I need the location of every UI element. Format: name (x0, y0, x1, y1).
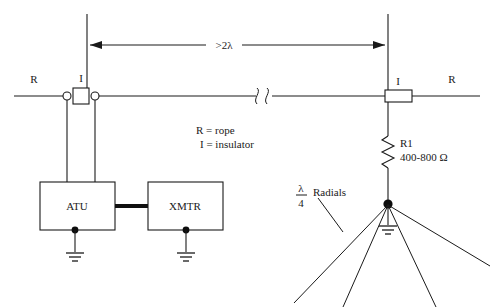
insulator-left (63, 88, 99, 104)
insulator-left-eye-east (91, 92, 99, 100)
label-resistor-ref: R1 (400, 137, 413, 149)
insulator-right-body (385, 90, 412, 102)
diagram-canvas: R R I I >2λ ATU XMTR R = rope I = insula… (0, 0, 494, 307)
label-radial-length-denominator: 4 (298, 197, 304, 209)
label-atu: ATU (66, 200, 87, 212)
legend-line-insulator: I = insulator (200, 138, 254, 150)
insulator-right (385, 90, 412, 102)
label-resistor-value: 400-800 Ω (400, 151, 448, 163)
radials-leader-line (318, 198, 343, 232)
label-rope-left: R (30, 73, 38, 85)
radial-2 (343, 205, 388, 307)
insulator-left-body (73, 88, 89, 104)
dimension-arrowhead-right (373, 41, 385, 49)
label-rope-right: R (448, 73, 456, 85)
resistor-r1-zigzag (382, 136, 394, 168)
antenna-diagram: R R I I >2λ ATU XMTR R = rope I = insula… (0, 0, 494, 307)
label-radials: Radials (313, 186, 346, 198)
wire-break-symbol (256, 88, 269, 104)
radial-4 (388, 205, 490, 266)
label-xmtr: XMTR (169, 200, 201, 212)
radial-1 (294, 205, 388, 303)
label-insulator-left: I (79, 72, 83, 84)
label-dimension: >2λ (215, 39, 233, 51)
insulator-left-eye-west (63, 92, 71, 100)
dimension-arrowhead-left (90, 41, 102, 49)
label-insulator-right: I (396, 75, 400, 87)
label-radial-length-numerator: λ (298, 182, 304, 194)
legend-line-rope: R = rope (196, 124, 235, 136)
radial-3 (388, 205, 436, 307)
